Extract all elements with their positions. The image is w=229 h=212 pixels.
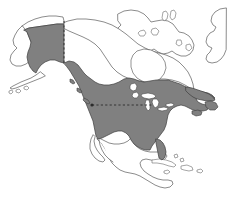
shaded-region-alaska [24, 24, 64, 73]
hispaniola-outline [181, 165, 193, 171]
map-canvas [0, 0, 229, 212]
great-slave-lake-outline [132, 92, 139, 98]
greenland-outline [206, 8, 226, 63]
bahamas-islet-a [174, 154, 178, 158]
north-america-map-figure [0, 0, 229, 212]
puerto-rico-outline [197, 169, 203, 173]
lake-erie-outline [158, 107, 168, 111]
cuba-outline [152, 159, 176, 167]
great-bear-lake-outline [130, 83, 137, 91]
arctic-islet-a [162, 11, 168, 21]
arctic-islet-b [170, 10, 176, 20]
dashed-boundary-west-node [90, 103, 93, 106]
aleutian-islet-b [24, 86, 29, 90]
aleutian-islet-c [9, 90, 13, 94]
bahamas-islet-b [180, 158, 184, 162]
jamaica-outline [164, 170, 170, 174]
aleutian-islet-a [16, 89, 21, 93]
alexander-archipelago-islet [70, 79, 75, 84]
